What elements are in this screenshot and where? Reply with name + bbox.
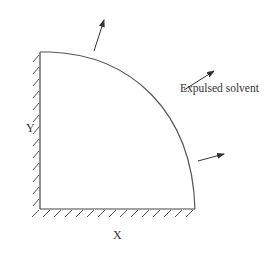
expulsion-arrow-right bbox=[198, 154, 224, 161]
expulsion-arrow-top bbox=[94, 20, 104, 51]
y-axis-label: Y bbox=[26, 122, 35, 134]
expulsed-solvent-label: Expulsed solvent bbox=[180, 83, 259, 95]
free-surface-curve bbox=[40, 52, 195, 209]
x-axis-label: X bbox=[113, 229, 122, 241]
quarter-drop-diagram bbox=[0, 0, 274, 254]
bottom-wall-hatching bbox=[32, 210, 193, 217]
